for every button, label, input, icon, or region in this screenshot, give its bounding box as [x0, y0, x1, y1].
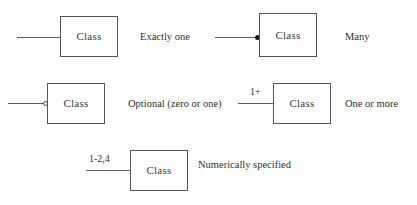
association-line-many	[215, 37, 259, 38]
association-line-optional	[8, 103, 46, 104]
caption-many: Many	[345, 32, 370, 43]
caption-numerically-specified: Numerically specified	[198, 160, 291, 171]
class-box-label: Class	[147, 165, 172, 176]
class-box-one-or-more: Class	[273, 83, 331, 124]
association-line-one-or-more	[238, 103, 274, 104]
association-line-numerically-specified	[86, 170, 130, 171]
class-box-numerically-specified: Class	[130, 150, 188, 191]
class-box-optional: Class	[47, 83, 105, 124]
class-box-label: Class	[77, 31, 102, 42]
caption-optional: Optional (zero or one)	[128, 99, 222, 110]
class-box-exactly-one: Class	[60, 16, 118, 57]
class-box-many: Class	[259, 13, 317, 57]
class-box-label: Class	[290, 98, 315, 109]
class-box-label: Class	[64, 98, 89, 109]
uml-multiplicity-diagram: Class Exactly one Class Many Class Optio…	[0, 0, 417, 205]
multiplicity-label-numerically-specified: 1-2,4	[89, 154, 110, 164]
caption-one-or-more: One or more	[345, 99, 398, 110]
caption-exactly-one: Exactly one	[140, 32, 190, 43]
association-line-exactly-one	[17, 37, 60, 38]
class-box-label: Class	[276, 30, 301, 41]
multiplicity-label-one-or-more: 1+	[250, 87, 261, 97]
